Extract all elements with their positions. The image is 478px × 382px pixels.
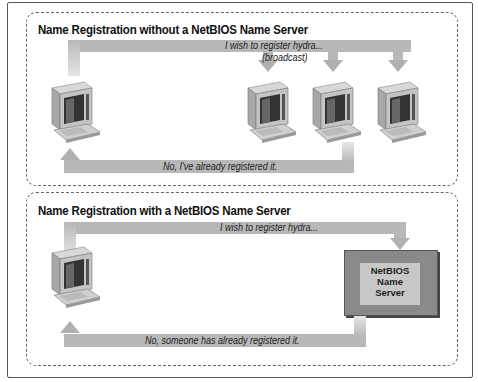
drop-stem-2 [328, 52, 338, 60]
drop-stem-3 [393, 52, 403, 60]
host-computer-icon [305, 80, 365, 150]
broadcast-label: (broadcast) [262, 52, 308, 63]
response-up-stem [64, 334, 76, 347]
request-label: I wish to register hydra... [225, 40, 323, 51]
arrow-down-3 [388, 60, 408, 72]
arrow-down-server [390, 238, 410, 250]
client-computer-icon [44, 80, 104, 150]
request-arrow-stem [68, 40, 80, 76]
server-label-line2: Name [360, 276, 420, 287]
panel-title-without-server: Name Registration without a NetBIOS Name… [38, 23, 308, 37]
server-label: NetBIOS Name Server [360, 263, 420, 305]
panel-title-with-server: Name Registration with a NetBIOS Name Se… [38, 204, 291, 218]
server-label-line3: Server [360, 287, 420, 298]
host-computer-icon [240, 80, 300, 150]
netbios-name-server: NetBIOS Name Server [344, 250, 438, 316]
response-arrow-stem [342, 142, 354, 162]
response-up-stem [64, 160, 76, 173]
server-response-label: No, someone has already registered it. [145, 335, 300, 346]
arrow-down-2 [323, 60, 343, 72]
arrow-up-client [60, 321, 80, 333]
request-label-server: I wish to register hydra... [220, 222, 318, 233]
arrow-up-client [60, 148, 80, 160]
host-computer-icon [370, 80, 430, 150]
client-computer-icon [44, 245, 104, 315]
server-response-stem [354, 316, 366, 336]
response-label: No, I've already registered it. [163, 161, 277, 172]
server-label-line1: NetBIOS [360, 265, 420, 276]
